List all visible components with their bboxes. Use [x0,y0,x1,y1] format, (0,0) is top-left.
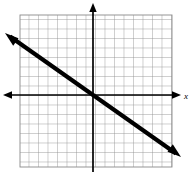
grid-cells [20,15,172,167]
graph-figure: x [0,0,195,174]
x-axis-label: x [183,91,188,101]
coordinate-plane-svg: x [0,0,195,174]
grid [20,15,172,167]
